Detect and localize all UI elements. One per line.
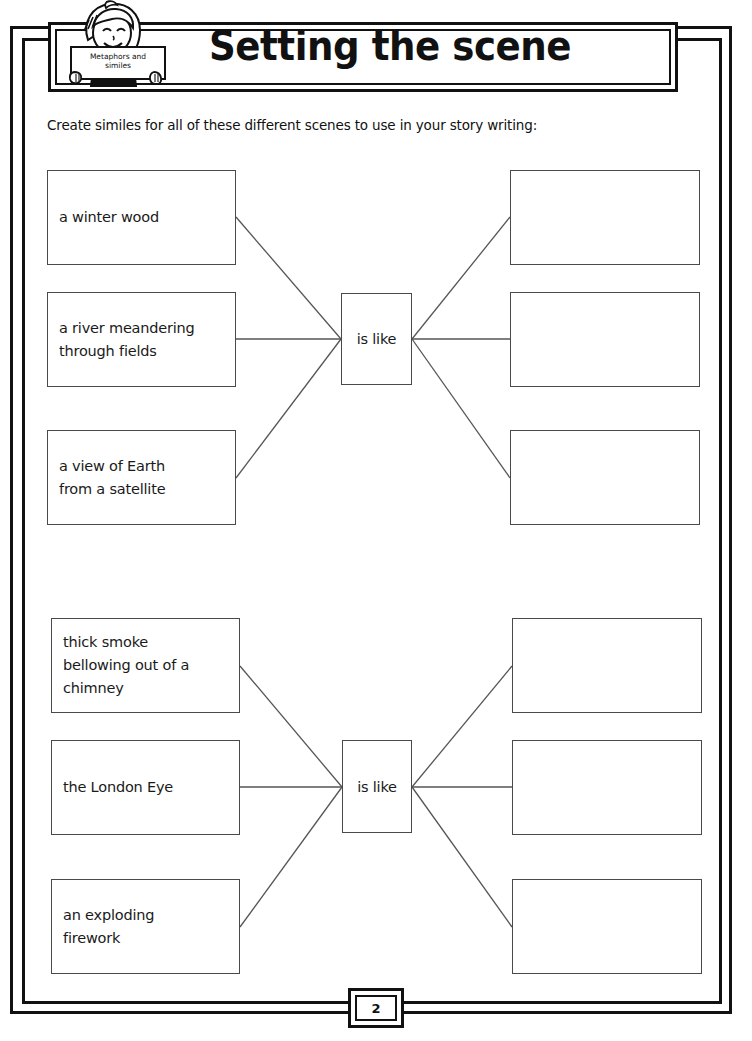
prompt-text: a river meandering through fields bbox=[59, 317, 235, 363]
prompt-box: thick smoke bellowing out of a chimney bbox=[51, 618, 240, 713]
worksheet-page: Setting the scene bbox=[0, 0, 752, 1041]
prompt-box: an exploding firework bbox=[51, 879, 240, 974]
cropped-footer-line bbox=[136, 1033, 636, 1041]
instruction-text: Create similes for all of these differen… bbox=[47, 116, 537, 134]
is-like-hub: is like bbox=[341, 293, 412, 385]
prompt-text: a view of Earth from a satellite bbox=[59, 455, 235, 501]
answer-box[interactable] bbox=[512, 740, 702, 835]
prompt-box: the London Eye bbox=[51, 740, 240, 835]
answer-box[interactable] bbox=[510, 170, 700, 265]
answer-box[interactable] bbox=[512, 618, 702, 713]
girl-holding-sign-icon: Metaphors and similes bbox=[62, 0, 170, 104]
is-like-label: is like bbox=[357, 330, 397, 348]
page-number: 2 bbox=[371, 1001, 380, 1016]
prompt-box: a river meandering through fields bbox=[47, 292, 236, 387]
prompt-text: an exploding firework bbox=[63, 904, 239, 950]
prompt-text: the London Eye bbox=[63, 776, 239, 799]
page-title: Setting the scene bbox=[148, 24, 632, 68]
answer-box[interactable] bbox=[512, 879, 702, 974]
answer-box[interactable] bbox=[510, 292, 700, 387]
prompt-box: a view of Earth from a satellite bbox=[47, 430, 236, 525]
is-like-hub: is like bbox=[342, 740, 412, 833]
page-number-badge: 2 bbox=[348, 988, 404, 1028]
prompt-text: thick smoke bellowing out of a chimney bbox=[63, 631, 239, 700]
prompt-box: a winter wood bbox=[47, 170, 236, 265]
mascot-sign-label: Metaphors and similes bbox=[76, 52, 160, 70]
prompt-text: a winter wood bbox=[59, 206, 235, 229]
page-number-inner-border: 2 bbox=[355, 995, 397, 1021]
is-like-label: is like bbox=[357, 778, 397, 796]
answer-box[interactable] bbox=[510, 430, 700, 525]
